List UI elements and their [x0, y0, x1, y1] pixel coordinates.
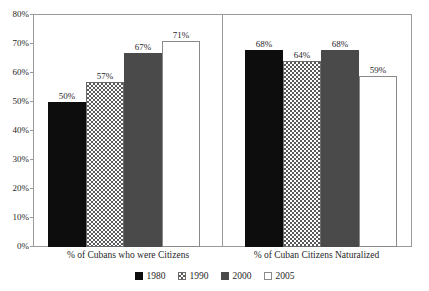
solid-black-swatch-icon — [135, 272, 143, 280]
bar-1980[interactable]: 68% — [245, 50, 283, 247]
y-tick-label: 40% — [13, 126, 30, 135]
bar-value-label: 50% — [59, 91, 76, 101]
legend-item-1990[interactable]: 1990 — [178, 271, 209, 281]
bar-2000[interactable]: 67% — [124, 53, 162, 247]
x-axis-category-labels: % of Cubans who were Citizens % of Cuban… — [34, 249, 411, 263]
white-outline-swatch-icon — [264, 272, 272, 280]
legend-label: 2005 — [276, 271, 295, 281]
y-tick-label: 80% — [13, 10, 30, 19]
bar-group-bars: 50% 57% 67% 71% — [34, 15, 222, 247]
legend-item-1980[interactable]: 1980 — [135, 271, 166, 281]
y-tick-label: 30% — [13, 155, 30, 164]
legend-label: 1980 — [147, 271, 166, 281]
y-tick-label: 70% — [13, 39, 30, 48]
legend-label: 2000 — [233, 271, 252, 281]
y-axis: 80% 70% 60% 50% 40% 30% 20% 10% 0% — [0, 0, 31, 291]
category-label: % of Cuban Citizens Naturalized — [222, 249, 411, 261]
bar-value-label: 57% — [97, 71, 114, 81]
bar-2000[interactable]: 68% — [321, 50, 359, 247]
plot-area: 50% 57% 67% 71% 68% 64% — [34, 15, 411, 247]
y-tick-label: 50% — [13, 97, 30, 106]
bar-group: 50% 57% 67% 71% — [34, 15, 222, 247]
y-tick-label: 20% — [13, 184, 30, 193]
bar-2005[interactable]: 59% — [359, 76, 397, 247]
bar-1990[interactable]: 64% — [283, 61, 321, 247]
y-tick-label: 0% — [17, 242, 29, 251]
legend-item-2005[interactable]: 2005 — [264, 271, 295, 281]
checkerboard-swatch-icon — [178, 272, 186, 280]
bar-group-bars: 68% 64% 68% 59% — [222, 15, 411, 247]
y-tick-label: 10% — [13, 213, 30, 222]
legend-item-2000[interactable]: 2000 — [221, 271, 252, 281]
bar-1980[interactable]: 50% — [48, 102, 86, 247]
bar-value-label: 59% — [370, 65, 387, 75]
bar-value-label: 64% — [294, 50, 311, 60]
bar-value-label: 68% — [256, 39, 273, 49]
category-label: % of Cubans who were Citizens — [34, 249, 222, 261]
bar-group: 68% 64% 68% 59% — [222, 15, 411, 247]
legend-label: 1990 — [190, 271, 209, 281]
bar-value-label: 71% — [173, 30, 190, 40]
chart-legend: 1980 1990 2000 2005 — [0, 268, 429, 284]
bar-2005[interactable]: 71% — [162, 41, 200, 247]
y-tick-label: 60% — [13, 68, 30, 77]
bar-chart: 80% 70% 60% 50% 40% 30% 20% 10% 0% 50% 5… — [0, 0, 429, 291]
bar-value-label: 67% — [135, 42, 152, 52]
bar-value-label: 68% — [332, 39, 349, 49]
bar-1990[interactable]: 57% — [86, 82, 124, 247]
solid-darkgray-swatch-icon — [221, 272, 229, 280]
